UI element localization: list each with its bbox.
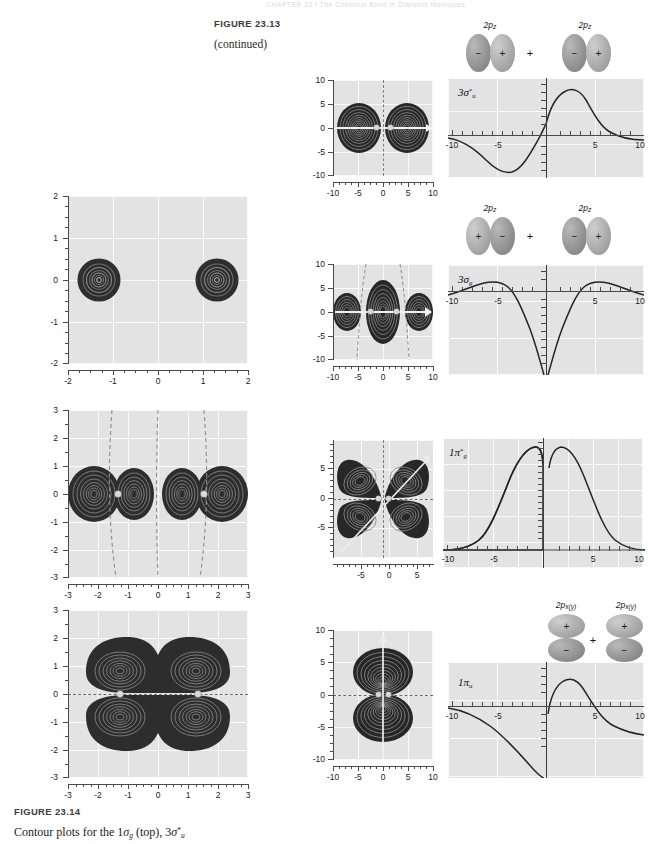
mo-label-3sigma-g: 3σg xyxy=(458,273,472,286)
ytick-label: 0 xyxy=(305,307,325,317)
ytick-label: -2 xyxy=(44,745,58,755)
caption-part-b: (top), 3 xyxy=(133,825,171,839)
ytick-label: -1 xyxy=(44,317,58,327)
xtick-label: 0 xyxy=(156,376,161,386)
xtick-label: 0 xyxy=(156,590,161,600)
ytick-label: 3 xyxy=(44,405,58,415)
lineplot-3sigma-g: 3σg -10 -5 5 10 xyxy=(448,265,646,387)
orbital-combination-3sigma-g: 2pz 2pz + − + − + xyxy=(452,203,642,261)
figure-continued-text: (continued) xyxy=(214,38,281,50)
xtick-label: 0 xyxy=(381,188,386,198)
xtick-label: -2 xyxy=(64,376,72,386)
xtick-label: 10 xyxy=(635,711,644,721)
xtick-label: -10 xyxy=(327,372,339,382)
xtick-label: -10 xyxy=(446,711,458,721)
mo-label-1pi-u: 1πu xyxy=(458,676,472,689)
ytick-label: 0 xyxy=(305,123,325,133)
xtick-label: -5 xyxy=(494,296,502,306)
ytick-label: 3 xyxy=(44,605,58,615)
xtick-label: 2 xyxy=(246,376,251,386)
xtick-label: -10 xyxy=(327,188,339,198)
contour-plot-3sigma-u-star-left: 3 2 1 0 -1 -2 -3 -3 -2 -1 0 xyxy=(46,408,296,598)
ytick-label: -2 xyxy=(44,545,58,555)
ytick-label: 1 xyxy=(44,233,58,243)
xtick-label: -2 xyxy=(94,790,102,800)
ytick-label: 5 xyxy=(305,99,325,109)
lobe-right-plus: + xyxy=(586,217,611,255)
xtick-label: 10 xyxy=(635,140,644,150)
xtick-label: -1 xyxy=(124,590,132,600)
xtick-label: 10 xyxy=(428,188,437,198)
lobe-left-plus: + xyxy=(466,217,491,255)
plot-area xyxy=(333,80,433,176)
caption-part-a: Contour plots for the 1 xyxy=(14,825,123,839)
xtick-label: -1 xyxy=(124,790,132,800)
lobe-right-minus: − xyxy=(562,217,587,255)
ytick-label: -10 xyxy=(305,354,325,364)
plot-area: 3σg xyxy=(448,265,644,375)
xtick-label: -10 xyxy=(327,772,339,782)
xtick-label: 3 xyxy=(246,790,251,800)
ytick-label: 5 xyxy=(307,463,325,473)
ytick-label: 0 xyxy=(44,275,58,285)
xtick-label: -10 xyxy=(446,140,458,150)
contour-plot-1pi-u-left: 3 2 1 0 -1 -2 -3 -3 -2 -1 0 xyxy=(46,608,296,798)
ytick-label: 0 xyxy=(305,690,325,700)
ytick-label: -3 xyxy=(44,572,58,582)
xtick-label: -5 xyxy=(357,570,365,580)
ytick-label: 5 xyxy=(305,657,325,667)
figure-label-2314: FIGURE 23.14 xyxy=(14,806,185,817)
plus-operator: + xyxy=(590,634,596,646)
lobe-right-top-plus: + xyxy=(606,614,643,638)
xtick-label: 2 xyxy=(216,590,221,600)
ytick-label: 0 xyxy=(307,493,325,503)
xtick-label: 5 xyxy=(593,140,598,150)
plus-operator: + xyxy=(527,47,533,59)
lineplot-1pi-g-star: 1π*g xyxy=(443,438,645,588)
plot-area xyxy=(333,440,433,558)
ytick-label: -5 xyxy=(307,522,325,532)
lobe-right-bottom-minus: − xyxy=(606,638,643,662)
xtick-label: 3 xyxy=(246,590,251,600)
contour-blobs xyxy=(333,264,433,360)
lobe-right-plus: + xyxy=(586,34,611,72)
xtick-label: -5 xyxy=(494,140,502,150)
ytick-label: -2 xyxy=(44,358,58,368)
running-head: CHAPTER 23 / The Chemical Bond in Diatom… xyxy=(236,1,496,8)
ytick-label: 2 xyxy=(44,633,58,643)
plot-area: 1πu xyxy=(448,662,644,778)
ytick-label: 1 xyxy=(44,461,58,471)
orbital-label-left: 2pz xyxy=(484,20,497,30)
ytick-label: 0 xyxy=(44,689,58,699)
lobe-left-plus: + xyxy=(490,34,515,72)
orbital-label-right: 2pz xyxy=(579,20,592,30)
ytick-label: -5 xyxy=(305,722,325,732)
contour-plot-1pi-u: 10 5 0 -5 -10 -10 -5 0 5 10 xyxy=(305,628,440,788)
xtick-label: -5 xyxy=(354,772,362,782)
xtick-label: -5 xyxy=(354,372,362,382)
contour-blob-left xyxy=(68,196,248,364)
ytick-label: -3 xyxy=(44,772,58,782)
xtick-label: -5 xyxy=(354,188,362,198)
xtick-label: 10 xyxy=(634,554,643,564)
contour-blobs xyxy=(68,410,248,578)
figure-caption-top: FIGURE 23.13 (continued) xyxy=(214,18,281,50)
plot-area: 3σ*u xyxy=(448,78,644,178)
xtick-label: 5 xyxy=(406,372,411,382)
xtick-label: -2 xyxy=(94,590,102,600)
plot-area xyxy=(333,264,433,360)
xtick-label: -10 xyxy=(446,296,458,306)
xtick-label: 5 xyxy=(415,570,420,580)
xtick-label: 10 xyxy=(635,296,644,306)
xtick-label: 0 xyxy=(381,372,386,382)
figure-page: CHAPTER 23 / The Chemical Bond in Diatom… xyxy=(0,0,648,844)
xtick-label: 10 xyxy=(428,372,437,382)
xtick-label: 0 xyxy=(387,570,392,580)
ytick-label: 5 xyxy=(305,283,325,293)
ytick-label: -5 xyxy=(305,147,325,157)
ytick-label: -10 xyxy=(305,170,325,180)
ytick-label: 0 xyxy=(44,489,58,499)
plot-area xyxy=(68,410,248,578)
xtick-label: 5 xyxy=(593,711,598,721)
ytick-label: -5 xyxy=(305,331,325,341)
